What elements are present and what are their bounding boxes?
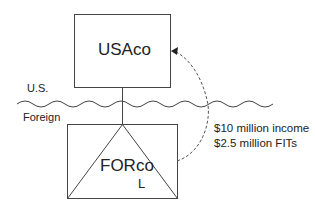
forco-marker-label: L (138, 176, 145, 191)
usaco-label: USAco (98, 40, 151, 60)
income-flow-arrow (174, 51, 208, 161)
income-amount-text: $10 million income (214, 121, 309, 136)
us-region-label: U.S. (27, 82, 48, 94)
flow-annotation: $10 million income $2.5 million FITs (214, 121, 309, 151)
fits-amount-text: $2.5 million FITs (214, 136, 309, 151)
border-wave-line (17, 101, 273, 107)
foreign-region-label: Foreign (23, 111, 60, 123)
arrowhead-icon (171, 47, 178, 55)
forco-label: FORco (100, 156, 154, 176)
diagram-canvas: USAco U.S. Foreign FORco L $10 million i… (0, 0, 315, 210)
